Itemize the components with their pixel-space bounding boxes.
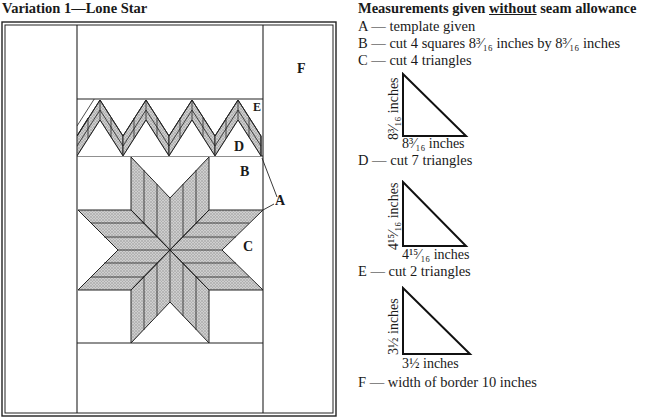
legend-item-C: C — cut 4 triangles [358, 52, 472, 69]
triangle-C-side-label: 8³⁄₁₆ inches [385, 77, 402, 140]
label-D: D [234, 139, 244, 155]
legend-item-D: D — cut 7 triangles [358, 152, 472, 169]
triangle-E-base-label: 3½ inches [402, 355, 459, 372]
label-E: E [253, 100, 261, 115]
triangle-D-side-label: 4¹⁵⁄₁₆ inches [385, 183, 402, 250]
legend-item-A: A — template given [358, 18, 475, 35]
label-B: B [240, 164, 249, 180]
label-F: F [297, 61, 306, 77]
triangle-D [401, 180, 469, 248]
triangle-E [401, 286, 473, 356]
triangle-E-side-label: 3½ inches [385, 298, 402, 355]
triangle-C-base-label: 8³⁄₁₆ inches [402, 135, 465, 152]
legend-item-E: E — cut 2 triangles [358, 263, 471, 280]
triangle-C [401, 72, 469, 138]
triangle-D-base-label: 4¹⁵⁄₁₆ inches [402, 246, 469, 263]
label-C: C [243, 239, 253, 255]
legend-item-F: F — width of border 10 inches [358, 374, 537, 391]
legend-heading: Measurements given without seam allowanc… [358, 0, 636, 17]
label-A: A [275, 193, 285, 209]
lone-star [78, 157, 263, 343]
legend-item-B: B — cut 4 squares 8³⁄₁₆ inches by 8³⁄₁₆ … [358, 35, 620, 52]
quilt-diagram [0, 0, 345, 418]
